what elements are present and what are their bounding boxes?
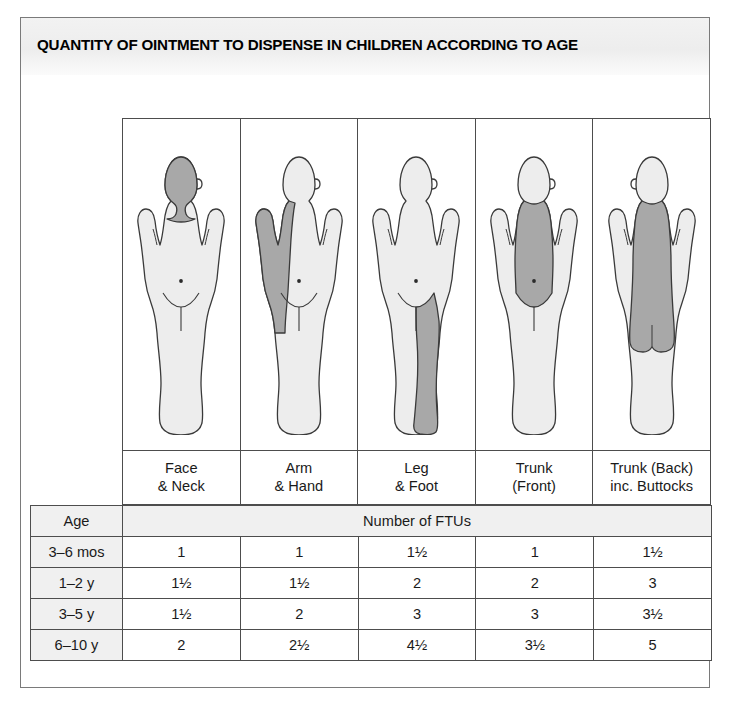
child-body-face-neck-icon <box>129 135 233 435</box>
label-line-2: & Foot <box>395 478 438 496</box>
ftu-value-arm-hand: 1 <box>240 537 358 568</box>
label-line-1: Face <box>165 460 197 478</box>
ftu-value-leg-foot: 1½ <box>358 537 476 568</box>
label-line-2: (Front) <box>512 478 556 496</box>
ftu-value-face-neck: 1½ <box>123 599 241 630</box>
body-part-label-arm-hand: Arm & Hand <box>241 451 359 504</box>
age-cell: 6–10 y <box>31 630 123 661</box>
navel-dot <box>532 279 536 283</box>
page-title: QUANTITY OF OINTMENT TO DISPENSE IN CHIL… <box>37 36 578 53</box>
ftu-value-trunk-back: 3 <box>594 568 712 599</box>
table-row: 6–10 y 2 2½ 4½ 3½ 5 <box>31 630 712 661</box>
body-part-label-trunk-front: Trunk (Front) <box>476 451 594 504</box>
navel-dot <box>297 279 301 283</box>
ftu-value-face-neck: 2 <box>123 630 241 661</box>
figure-cell-trunk-back <box>593 119 710 450</box>
ftu-value-trunk-back: 3½ <box>594 599 712 630</box>
child-body-arm-hand-icon <box>247 135 351 435</box>
age-cell: 1–2 y <box>31 568 123 599</box>
ointment-ftu-chart: QUANTITY OF OINTMENT TO DISPENSE IN CHIL… <box>0 0 756 707</box>
body-part-label-trunk-back: Trunk (Back) inc. Buttocks <box>593 451 710 504</box>
label-line-1: Trunk (Back) <box>610 460 693 478</box>
ftu-value-face-neck: 1 <box>123 537 241 568</box>
child-body-trunk-front-icon <box>482 135 586 435</box>
ftu-value-face-neck: 1½ <box>123 568 241 599</box>
table-header-row: Age Number of FTUs <box>31 506 712 537</box>
title-band: QUANTITY OF OINTMENT TO DISPENSE IN CHIL… <box>21 18 709 75</box>
ftu-value-trunk-back: 5 <box>594 630 712 661</box>
figure-cell-trunk-front <box>476 119 594 450</box>
label-line-1: Arm <box>286 460 313 478</box>
label-line-1: Leg <box>404 460 428 478</box>
ftu-value-trunk-front: 2 <box>476 568 594 599</box>
ftu-value-arm-hand: 2 <box>240 599 358 630</box>
table-row: 3–6 mos 1 1 1½ 1 1½ <box>31 537 712 568</box>
ftu-value-trunk-back: 1½ <box>594 537 712 568</box>
ftu-value-leg-foot: 3 <box>358 599 476 630</box>
figure-cell-arm-hand <box>241 119 359 450</box>
ftu-value-leg-foot: 4½ <box>358 630 476 661</box>
age-cell: 3–6 mos <box>31 537 123 568</box>
figure-cell-face-neck <box>123 119 241 450</box>
body-part-label-face-neck: Face & Neck <box>123 451 241 504</box>
body-part-label-leg-foot: Leg & Foot <box>358 451 476 504</box>
age-header-cell: Age <box>31 506 123 537</box>
ftu-data-table: Age Number of FTUs 3–6 mos 1 1 1½ 1 1½ 1… <box>30 505 712 661</box>
navel-dot <box>415 279 419 283</box>
chart-frame: QUANTITY OF OINTMENT TO DISPENSE IN CHIL… <box>20 17 710 688</box>
ftu-value-trunk-front: 3 <box>476 599 594 630</box>
ftu-value-trunk-front: 1 <box>476 537 594 568</box>
body-figure-grid <box>122 118 711 451</box>
label-line-2: inc. Buttocks <box>610 478 693 496</box>
label-line-2: & Neck <box>158 478 205 496</box>
label-line-1: Trunk <box>516 460 553 478</box>
ftu-header-cell: Number of FTUs <box>123 506 712 537</box>
table-row: 3–5 y 1½ 2 3 3 3½ <box>31 599 712 630</box>
body-part-label-row: Face & Neck Arm & Hand Leg & Foot Trunk … <box>122 451 711 505</box>
ftu-value-trunk-front: 3½ <box>476 630 594 661</box>
ftu-value-arm-hand: 2½ <box>240 630 358 661</box>
table-row: 1–2 y 1½ 1½ 2 2 3 <box>31 568 712 599</box>
label-line-2: & Hand <box>275 478 324 496</box>
ftu-value-arm-hand: 1½ <box>240 568 358 599</box>
age-cell: 3–5 y <box>31 599 123 630</box>
navel-dot <box>179 279 183 283</box>
child-body-trunk-back-icon <box>600 135 704 435</box>
figure-cell-leg-foot <box>358 119 476 450</box>
ftu-value-leg-foot: 2 <box>358 568 476 599</box>
child-body-leg-foot-icon <box>364 135 468 435</box>
